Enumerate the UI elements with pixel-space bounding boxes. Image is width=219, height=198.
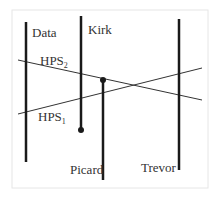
picard-endpoint-dot [100,77,106,83]
kirk-label: Kirk [88,22,112,37]
picard-label: Picard [70,162,104,177]
hps1-label: HPS1 [38,109,66,126]
spatial-voting-diagram: Data Kirk Picard Trevor HPS2 HPS1 [0,0,219,198]
kirk-endpoint-dot [78,127,84,133]
trevor-label: Trevor [141,160,177,175]
data-label: Data [32,25,57,40]
hps2-label: HPS2 [40,53,68,70]
